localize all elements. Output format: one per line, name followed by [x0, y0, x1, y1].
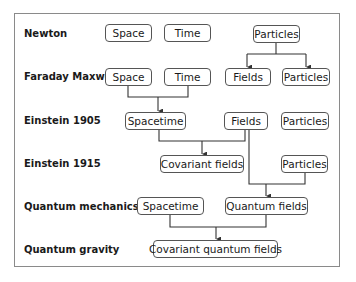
- node-newton-particles: Particles: [253, 25, 300, 43]
- node-e1905-spacetime: Spacetime: [125, 112, 186, 130]
- node-qm-spacetime: Spacetime: [137, 197, 204, 215]
- node-e1915-particles: Particles: [281, 155, 328, 173]
- node-e1905-particles: Particles: [281, 112, 329, 130]
- node-fm-space: Space: [105, 68, 152, 86]
- node-fm-fields: Fields: [225, 68, 271, 86]
- node-qg-covariant-quantum-fields: Covariant quantum fields: [153, 240, 278, 258]
- node-e1915-covariant-fields: Covariant fields: [160, 155, 244, 173]
- node-qm-quantum-fields: Quantum fields: [225, 197, 308, 215]
- node-fm-time: Time: [164, 68, 211, 86]
- node-newton-space: Space: [105, 24, 152, 42]
- node-fm-particles: Particles: [282, 68, 330, 86]
- node-newton-time: Time: [164, 24, 211, 42]
- node-e1905-fields: Fields: [224, 112, 268, 130]
